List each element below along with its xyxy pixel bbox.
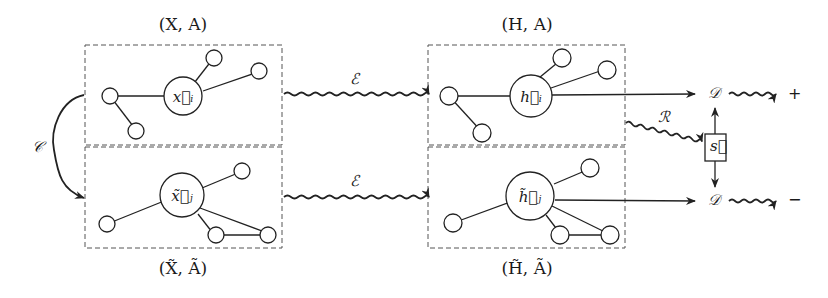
positive-output-arrow [729, 93, 776, 96]
discriminator-label-top: 𝒟 [708, 84, 720, 102]
negative-sign: − [788, 190, 801, 209]
encoder-label-top: ℰ [350, 70, 359, 88]
panel-title-input-original: (X, A) [159, 14, 207, 34]
corruption-label: 𝒞 [32, 138, 43, 156]
corruption-arrow [53, 95, 84, 198]
edge-h-tilde-to-discriminator-bottom [555, 200, 695, 201]
summary-vector-label: s⃗ [710, 137, 727, 155]
encoder-arrow-bottom [284, 196, 429, 199]
node-label-h-tilde-j: h̃⃗ⱼ [519, 188, 542, 206]
node-label-x-i: x⃗ᵢ [173, 88, 193, 106]
positive-sign: + [788, 84, 801, 103]
edge-h-to-discriminator-top [552, 94, 695, 95]
dgi-diagram: (X, A) (X̃, Ã) (H, A) (H̃, Ã) x⃗ᵢ x̃⃗ⱼ h… [0, 0, 828, 298]
panel-title-input-corrupted: (X̃, Ã) [159, 258, 207, 278]
encoder-arrow-top [284, 93, 429, 96]
negative-output-arrow [729, 200, 776, 203]
encoder-label-bottom: ℰ [350, 172, 359, 190]
panel-title-embed-corrupted: (H̃, Ã) [501, 258, 552, 278]
panel-title-embed-original: (H, A) [501, 14, 552, 34]
discriminator-label-bottom: 𝒟 [708, 191, 720, 209]
readout-label: ℛ [658, 108, 670, 126]
node-label-x-tilde-j: x̃⃗ⱼ [171, 187, 192, 205]
diagram-canvas [0, 0, 828, 298]
node-label-h-i: h⃗ᵢ [520, 88, 542, 106]
